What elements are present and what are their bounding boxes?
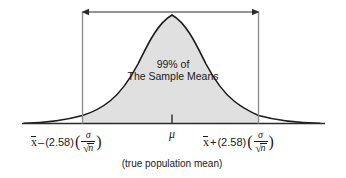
shaded-confidence-region — [83, 15, 259, 124]
normal-distribution-figure: 99% of The Sample Means μ (true populati… — [0, 0, 346, 178]
distribution-plot — [0, 0, 346, 178]
